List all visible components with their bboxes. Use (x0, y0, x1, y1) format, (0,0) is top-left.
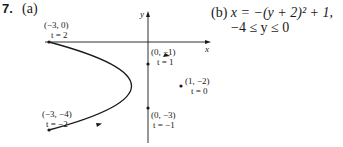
x-axis-label: x (204, 44, 209, 54)
point-label-param: t = 0 (191, 86, 208, 96)
point-t0 (179, 84, 182, 87)
point-label-param: t = −2 (46, 119, 68, 129)
point-label-param: t = −1 (153, 120, 175, 130)
point-label-param: t = 2 (51, 30, 68, 40)
point-label-param: t = 1 (157, 57, 174, 67)
direction-arrow-icon (96, 123, 102, 127)
point-label-coord: (0, −1) (151, 47, 176, 57)
point-label-coord: (1, −2) (185, 76, 210, 86)
parametric-graph: y x (−3, 0) t = 2 (0, −1) t = 1 (1, −2) … (0, 0, 343, 147)
point-tm1 (146, 106, 149, 109)
y-axis-label: y (139, 9, 144, 19)
point-t1 (146, 62, 149, 65)
point-t2 (47, 40, 50, 43)
y-axis-arrow-icon (146, 11, 150, 17)
point-label-coord: (0, −3) (151, 110, 176, 120)
point-label-coord: (−3, 0) (44, 20, 69, 30)
point-label-coord: (−3, −4) (42, 109, 72, 119)
